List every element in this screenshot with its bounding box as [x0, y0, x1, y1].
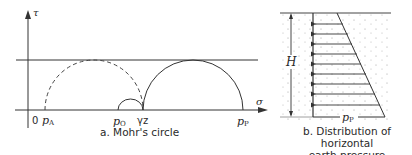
- tau-axis-arrow-icon: [25, 10, 31, 19]
- at-rest-circle: [118, 99, 143, 110]
- gamma-z-label: γz: [137, 115, 148, 126]
- earth-pressure-panel: H pP: [280, 13, 392, 124]
- sigma-axis-arrow-icon: [258, 107, 268, 113]
- sigma-label: σ: [256, 96, 264, 107]
- active-circle: [45, 60, 143, 110]
- tau-label: τ: [33, 7, 39, 18]
- caption-b: b. Distribution of horizontal earth pres…: [282, 125, 412, 155]
- passive-circle: [143, 60, 243, 110]
- caption-a: a. Mohr's circle: [100, 126, 210, 138]
- p-a-label: pA: [42, 114, 55, 127]
- caption-b-line1: b. Distribution of horizontal: [282, 125, 412, 149]
- mohr-circle-panel: τ σ 0 pA pO γz pP: [15, 7, 268, 128]
- height-label: H: [285, 55, 297, 69]
- origin-label: 0: [32, 115, 38, 126]
- caption-b-line2: earth pressure: [282, 149, 412, 155]
- p-p-label: pP: [237, 115, 249, 128]
